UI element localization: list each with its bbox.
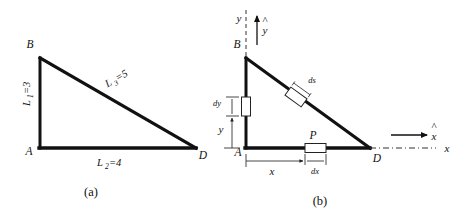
panel-a: B A D L 1 =3 L 2 =4 L 3 =5 (a) <box>21 38 208 199</box>
panel-b: y ^ y B A D x ^ x <box>213 10 450 208</box>
panel-b-vertex-label-B: B <box>233 38 240 50</box>
panel-a-side-label-L2: L 2 =4 <box>96 157 122 171</box>
figure-root: B A D L 1 =3 L 2 =4 L 3 =5 (a) <box>0 0 466 215</box>
panel-a-side-label-L3: L 3 =5 <box>102 68 131 93</box>
panel-b-y-dimension-label: y <box>218 123 224 135</box>
panel-b-y-axis-label: y <box>236 12 242 24</box>
panel-b-dy-label: dy <box>213 98 221 108</box>
panel-a-side-label-L2-symbol: L <box>96 157 103 168</box>
panel-b-vertex-label-D: D <box>372 152 382 164</box>
panel-b-x-dimension-label: x <box>269 165 275 177</box>
panel-b-ds-label: ds <box>308 75 316 85</box>
panel-b-x-axis-label: x <box>444 142 450 154</box>
panel-b-dx-element-box <box>305 144 326 153</box>
figure-svg: B A D L 1 =3 L 2 =4 L 3 =5 (a) <box>0 0 466 215</box>
panel-b-dx-label: dx <box>311 166 319 176</box>
panel-b-dy-element-box <box>242 97 251 116</box>
panel-a-side-label-L1-equals: =3 <box>21 82 32 94</box>
panel-a-caption: (a) <box>84 185 98 199</box>
panel-a-vertex-label-B: B <box>26 38 33 50</box>
panel-a-vertex-label-D: D <box>198 149 208 161</box>
panel-a-vertex-label-A: A <box>24 145 33 157</box>
panel-b-y-hat-label: y <box>262 24 268 36</box>
panel-a-side-label-L3-symbol: L <box>102 77 114 90</box>
panel-b-hypotenuse-side <box>246 58 370 148</box>
panel-b-point-label-P: P <box>308 129 316 141</box>
panel-a-side-label-L1: L 1 =3 <box>21 82 35 107</box>
panel-a-side-label-L2-equals: =4 <box>109 157 122 168</box>
panel-b-caption: (b) <box>313 194 328 208</box>
panel-a-side-label-L1-symbol: L <box>21 100 32 107</box>
panel-b-triangle <box>245 58 370 148</box>
panel-b-x-hat-label: x <box>431 130 437 142</box>
